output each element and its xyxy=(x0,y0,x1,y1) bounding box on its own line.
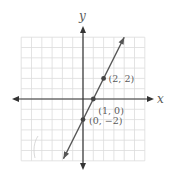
y-axis-label: y xyxy=(78,9,86,23)
data-point xyxy=(91,97,96,102)
y-axis-bottom-arrow-icon xyxy=(80,163,86,170)
x-axis-left-arrow-icon xyxy=(12,96,19,102)
data-point xyxy=(81,117,86,122)
y-axis-top-arrow-icon xyxy=(80,26,86,33)
pencil-mark xyxy=(34,136,38,158)
data-point xyxy=(101,76,106,81)
x-axis-right-arrow-icon xyxy=(147,96,154,102)
line-bottom-arrow-icon xyxy=(63,151,69,159)
point-label: (0, −2) xyxy=(89,115,123,126)
point-label: (2, 2) xyxy=(109,73,135,84)
line-top-arrow-icon xyxy=(119,37,125,45)
x-axis-label: x xyxy=(157,92,164,106)
coordinate-plane: y x (2, 2)(1, 0)(0, −2) xyxy=(0,0,170,174)
